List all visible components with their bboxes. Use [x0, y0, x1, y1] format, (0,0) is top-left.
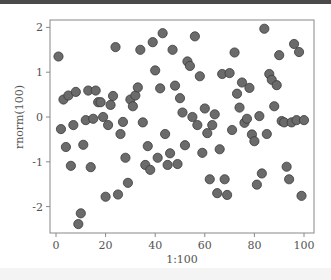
data-point: [188, 112, 197, 121]
data-point: [138, 118, 147, 127]
data-point: [255, 112, 264, 121]
data-point: [250, 137, 259, 146]
data-point: [220, 175, 229, 184]
data-point: [215, 145, 224, 154]
x-tick-label: 60: [198, 239, 212, 252]
data-point: [170, 81, 179, 90]
data-point: [71, 87, 80, 96]
scatter-plot: 020406080100 -2-1012 1:100 rnorm(100): [0, 0, 331, 280]
data-point: [198, 148, 207, 157]
x-tick-label: 40: [148, 239, 162, 252]
data-point: [289, 39, 298, 48]
data-points: [54, 24, 309, 229]
data-point: [285, 175, 294, 184]
data-point: [74, 219, 83, 228]
data-point: [185, 61, 194, 70]
data-point: [213, 189, 222, 198]
y-tick-label: 0: [36, 111, 43, 124]
x-tick-label: 0: [53, 239, 60, 252]
data-point: [103, 120, 112, 129]
x-axis-label: 1:100: [166, 253, 198, 266]
data-point: [299, 116, 308, 125]
data-point: [297, 191, 306, 200]
data-point: [111, 43, 120, 52]
data-point: [101, 192, 110, 201]
data-point: [79, 140, 88, 149]
data-point: [208, 120, 217, 129]
data-point: [99, 112, 108, 121]
data-point: [205, 175, 214, 184]
y-tick-label: 1: [36, 66, 43, 79]
data-point: [168, 45, 177, 54]
data-point: [190, 32, 199, 41]
data-point: [106, 100, 115, 109]
data-point: [200, 104, 209, 113]
data-point: [227, 125, 236, 134]
data-point: [143, 142, 152, 151]
data-point: [195, 72, 204, 81]
data-point: [173, 159, 182, 168]
data-point: [232, 89, 241, 98]
data-point: [113, 190, 122, 199]
y-tick-label: -1: [32, 156, 43, 169]
data-point: [165, 149, 174, 158]
data-point: [163, 160, 172, 169]
y-axis: -2-1012: [32, 21, 50, 213]
data-point: [180, 141, 189, 150]
data-point: [203, 129, 212, 138]
data-point: [230, 48, 239, 57]
data-point: [146, 165, 155, 174]
plot-frame: [50, 20, 314, 233]
data-point: [61, 142, 70, 151]
data-point: [257, 169, 266, 178]
data-point: [262, 129, 271, 138]
x-tick-label: 80: [247, 239, 261, 252]
data-point: [282, 162, 291, 171]
data-point: [69, 120, 78, 129]
data-point: [272, 81, 281, 90]
y-tick-label: -2: [32, 201, 43, 214]
y-axis-label: rnorm(100): [13, 85, 26, 149]
data-point: [66, 161, 75, 170]
data-point: [54, 52, 63, 61]
data-point: [158, 29, 167, 38]
data-point: [121, 153, 130, 162]
data-point: [225, 68, 234, 77]
y-tick-label: 2: [36, 21, 43, 34]
data-point: [91, 86, 100, 95]
data-point: [252, 180, 261, 189]
data-point: [118, 117, 127, 126]
data-point: [242, 114, 251, 123]
data-point: [235, 103, 244, 112]
data-point: [270, 102, 279, 111]
data-point: [76, 209, 85, 218]
data-point: [136, 45, 145, 54]
data-point: [193, 120, 202, 129]
data-point: [56, 124, 65, 133]
data-point: [245, 83, 254, 92]
data-point: [178, 108, 187, 117]
data-point: [161, 129, 170, 138]
data-point: [294, 47, 303, 56]
data-point: [175, 94, 184, 103]
data-point: [108, 91, 117, 100]
data-point: [156, 84, 165, 93]
data-point: [96, 98, 105, 107]
data-point: [128, 102, 137, 111]
data-point: [86, 163, 95, 172]
data-point: [148, 38, 157, 47]
x-tick-label: 100: [294, 239, 315, 252]
data-point: [210, 110, 219, 119]
data-point: [151, 66, 160, 75]
data-point: [275, 51, 284, 60]
data-point: [89, 114, 98, 123]
x-axis: 020406080100: [53, 233, 315, 252]
data-point: [133, 83, 142, 92]
x-tick-label: 20: [99, 239, 113, 252]
data-point: [123, 178, 132, 187]
data-point: [260, 24, 269, 33]
data-point: [153, 153, 162, 162]
data-point: [116, 129, 125, 138]
data-point: [223, 190, 232, 199]
